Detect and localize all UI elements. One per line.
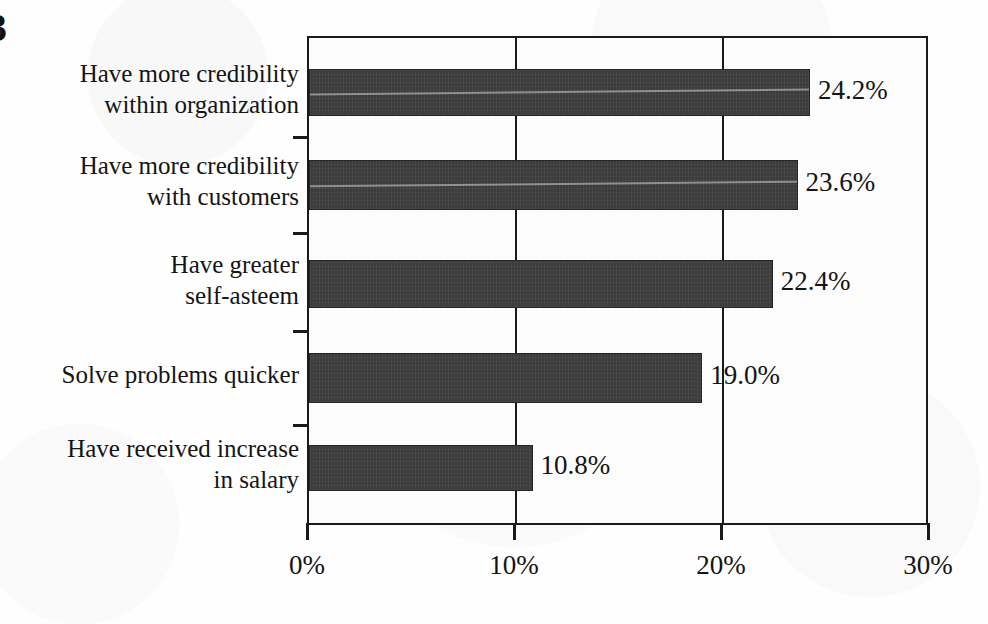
y-axis-tick-3 bbox=[293, 424, 308, 427]
bar-3 bbox=[309, 353, 702, 403]
x-axis-tick-2 bbox=[720, 523, 723, 540]
bar-0 bbox=[309, 69, 810, 116]
bar-2 bbox=[309, 260, 773, 308]
x-axis-tick-label-3: 30% bbox=[903, 552, 953, 579]
value-label-4: 10.8% bbox=[541, 452, 611, 479]
category-label-2: Have greater self-asteem bbox=[7, 249, 307, 311]
value-label-1: 23.6% bbox=[806, 169, 876, 196]
value-label-3: 19.0% bbox=[710, 362, 780, 389]
category-label-1: Have more credibility with customers bbox=[7, 150, 307, 212]
x-axis-tick-1 bbox=[513, 523, 516, 540]
value-label-2: 22.4% bbox=[781, 268, 851, 295]
bar-4 bbox=[309, 445, 533, 491]
y-axis-tick-0 bbox=[293, 136, 308, 139]
bar-1 bbox=[309, 160, 798, 210]
page-number-marker: 3 bbox=[0, 8, 7, 48]
x-axis-tick-label-1: 10% bbox=[489, 552, 539, 579]
chart-page: 3 Have more credibility within organizat… bbox=[0, 0, 988, 624]
x-axis-tick-3 bbox=[927, 523, 930, 540]
category-label-4: Have received increase in salary bbox=[7, 433, 307, 495]
y-axis-tick-2 bbox=[293, 330, 308, 333]
category-label-0: Have more credibility within organizatio… bbox=[7, 58, 307, 120]
x-axis-tick-label-0: 0% bbox=[289, 552, 325, 579]
category-label-3: Solve problems quicker bbox=[7, 359, 307, 390]
value-label-0: 24.2% bbox=[818, 77, 888, 104]
y-axis-tick-1 bbox=[293, 232, 308, 235]
x-axis-tick-0 bbox=[306, 523, 309, 540]
x-axis-tick-label-2: 20% bbox=[696, 552, 746, 579]
